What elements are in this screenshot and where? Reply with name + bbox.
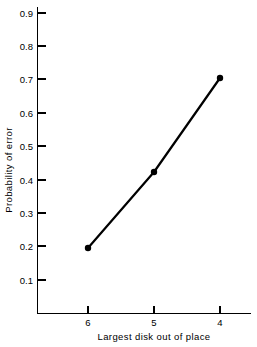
data-point-6	[85, 245, 91, 251]
x-tick-label-1: 5	[151, 317, 156, 328]
data-point-4	[217, 75, 223, 81]
y-axis-title: Probability of error	[3, 127, 14, 213]
y-tick-label-8: 0.1	[20, 275, 33, 286]
x-tick-label-2: 4	[217, 317, 222, 328]
y-tick-label-4: 0.5	[20, 141, 33, 152]
y-tick-label-6: 0.3	[20, 208, 33, 219]
line-chart: 0.9 0.8 0.7 0.6 0.5 0.4 0.3 0.2 0.1 6 5 …	[0, 0, 257, 347]
y-tick-label-2: 0.7	[20, 74, 33, 85]
data-point-5	[151, 169, 157, 175]
y-axis-tick-labels: 0.9 0.8 0.7 0.6 0.5 0.4 0.3 0.2 0.1	[20, 8, 33, 286]
x-axis-title: Largest disk out of place	[98, 331, 211, 342]
y-tick-label-5: 0.4	[20, 175, 33, 186]
y-tick-label-3: 0.6	[20, 108, 33, 119]
y-tick-label-1: 0.8	[20, 41, 33, 52]
y-tick-label-0: 0.9	[20, 8, 33, 19]
y-tick-label-7: 0.2	[20, 241, 33, 252]
chart-figure: 0.9 0.8 0.7 0.6 0.5 0.4 0.3 0.2 0.1 6 5 …	[0, 0, 257, 347]
chart-background	[0, 0, 257, 347]
x-tick-label-0: 6	[85, 317, 90, 328]
